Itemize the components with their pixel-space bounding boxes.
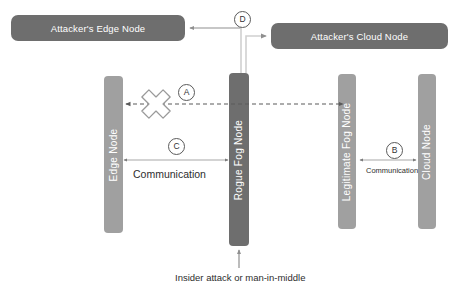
attacker-cloud-node-box: Attacker's Cloud Node (271, 23, 448, 49)
marker-c: C (168, 138, 185, 155)
marker-d: D (234, 11, 251, 28)
legitimate-fog-node-bar: Legitimate Fog Node (338, 74, 356, 229)
marker-a: A (178, 84, 195, 101)
attacker-cloud-node-label: Attacker's Cloud Node (311, 31, 408, 42)
attacker-edge-node-label: Attacker's Edge Node (51, 23, 146, 34)
cloud-node-bar: Cloud Node (418, 74, 436, 229)
rogue-fog-node-label: Rogue Fog Node (234, 119, 244, 199)
communication-label-right: Communication (366, 166, 418, 175)
blocked-cross-icon (135, 83, 177, 125)
rogue-fog-node-bar: Rogue Fog Node (229, 73, 249, 246)
marker-c-label: C (173, 142, 179, 151)
marker-b-label: B (392, 146, 398, 155)
cloud-node-label: Cloud Node (422, 124, 432, 180)
attacker-edge-node-box: Attacker's Edge Node (11, 15, 185, 41)
diagram-canvas: Attacker's Edge Node Attacker's Cloud No… (0, 0, 460, 292)
communication-label-left: Communication (133, 168, 206, 180)
legitimate-fog-node-label: Legitimate Fog Node (342, 102, 352, 201)
edge-node-label: Edge Node (109, 128, 119, 181)
marker-b: B (386, 142, 403, 159)
marker-d-label: D (239, 15, 245, 24)
edge-node-bar: Edge Node (104, 76, 123, 233)
link-rogue-to-attacker-cloud (246, 36, 266, 73)
insider-attack-caption: Insider attack or man-in-middle (175, 272, 305, 283)
marker-a-label: A (184, 88, 190, 97)
